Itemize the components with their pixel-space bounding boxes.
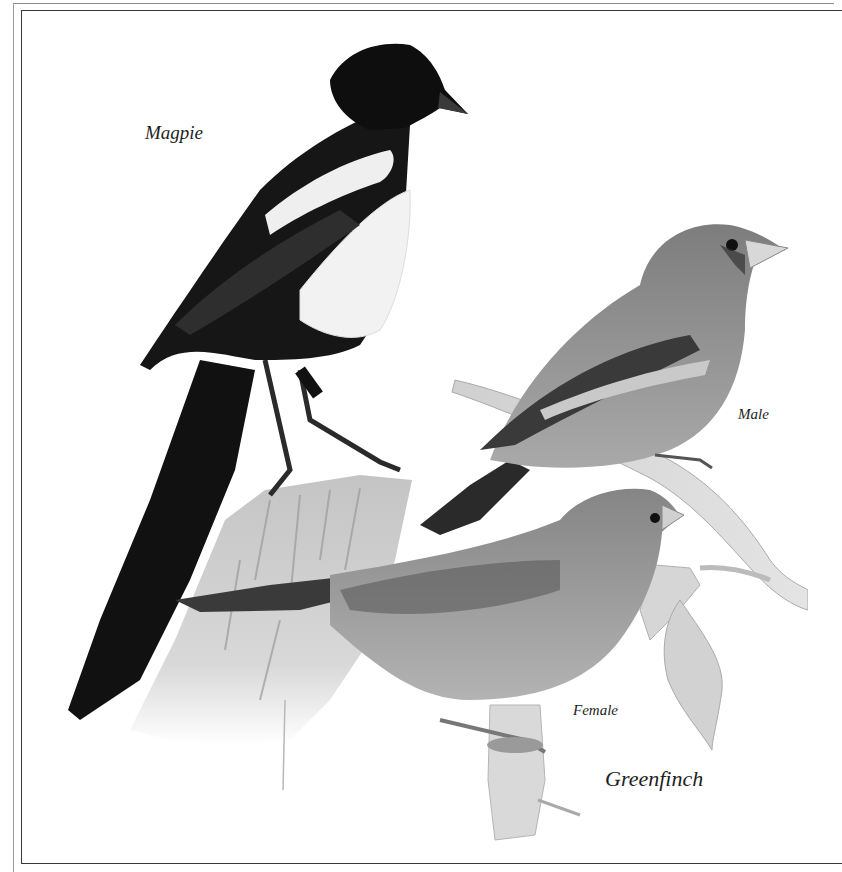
label-female: Female bbox=[573, 702, 618, 719]
branch-lower bbox=[488, 705, 580, 840]
greenfinch-male bbox=[420, 224, 788, 535]
leaves bbox=[640, 565, 722, 750]
label-magpie: Magpie bbox=[145, 122, 203, 144]
label-greenfinch: Greenfinch bbox=[605, 766, 703, 792]
label-male: Male bbox=[738, 406, 769, 423]
